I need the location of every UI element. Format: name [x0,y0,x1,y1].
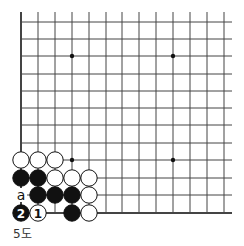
white-stone-icon [30,152,46,168]
point-label-a: a [17,187,26,203]
diagram-caption: 5도 [13,224,32,241]
white-stone-icon [13,152,29,168]
white-stone-icon [47,170,63,186]
white-stone-icon [64,170,80,186]
star-point-icon [171,54,175,58]
white-stone-icon [81,170,97,186]
black-stone-icon [64,187,80,203]
star-point-icon [70,158,74,162]
go-board: a21 [0,0,244,246]
move-number-label: 2 [17,207,25,221]
black-stone-icon [47,187,63,203]
black-stone-icon [64,205,80,221]
black-stone-icon [13,170,29,186]
star-point-icon [171,158,175,162]
white-stone-icon [81,187,97,203]
white-stone-icon [81,205,97,221]
black-stone-icon [30,187,46,203]
star-point-icon [70,54,74,58]
move-number-label: 1 [34,207,42,221]
black-stone-icon [30,170,46,186]
white-stone-icon [47,152,63,168]
